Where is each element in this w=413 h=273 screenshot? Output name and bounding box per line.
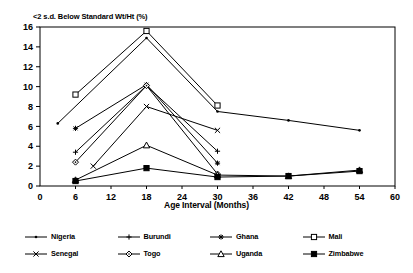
legend-marker xyxy=(126,234,131,239)
data-point xyxy=(287,119,290,122)
data-point xyxy=(56,122,59,125)
legend-marker xyxy=(311,251,316,256)
series-line xyxy=(93,107,217,167)
data-point xyxy=(143,142,149,148)
legend-item-nigeria[interactable]: Nigeria xyxy=(24,232,117,242)
data-point xyxy=(146,85,148,87)
series-mali xyxy=(73,28,220,108)
legend-label: Mali xyxy=(329,233,343,240)
triangle-open-marker-icon xyxy=(209,249,233,259)
y-tick-label: 8 xyxy=(28,102,33,112)
data-point xyxy=(144,104,149,109)
data-point xyxy=(144,28,149,33)
series-nigeria xyxy=(56,37,360,132)
legend-label: Nigeria xyxy=(51,233,75,240)
legend-item-ghana[interactable]: Ghana xyxy=(209,232,302,242)
series-line xyxy=(76,86,218,174)
data-point xyxy=(73,178,78,183)
y-tick-label: 2 xyxy=(28,161,33,171)
data-point xyxy=(215,128,220,133)
y-tick-label: 6 xyxy=(28,122,33,132)
data-point xyxy=(75,161,77,163)
series-togo xyxy=(73,83,221,177)
legend-item-uganda[interactable]: Uganda xyxy=(209,249,302,259)
data-point xyxy=(216,162,218,164)
plus-marker-icon xyxy=(117,232,141,242)
dot-marker-icon xyxy=(24,232,48,242)
legend-label: Zimbabwe xyxy=(329,250,364,257)
data-point xyxy=(286,173,291,178)
legend-marker xyxy=(311,234,316,239)
data-point xyxy=(215,174,220,179)
legend-item-zimbabwe[interactable]: Zimbabwe xyxy=(302,249,395,259)
legend-label: Senegal xyxy=(51,250,78,257)
data-point xyxy=(215,103,220,108)
legend-label: Burundi xyxy=(144,233,171,240)
series-line xyxy=(76,85,218,164)
data-point xyxy=(91,164,96,169)
x-axis-label: Age Interval (Months) xyxy=(0,200,413,210)
data-point xyxy=(358,129,361,132)
legend-item-burundi[interactable]: Burundi xyxy=(117,232,210,242)
y-tick-label: 16 xyxy=(23,22,33,32)
y-tick-label: 4 xyxy=(28,141,33,151)
legend-marker xyxy=(220,235,222,237)
legend-label: Ghana xyxy=(236,233,258,240)
legend-label: Togo xyxy=(144,250,161,257)
square-open-marker-icon xyxy=(302,232,326,242)
cross-marker-icon xyxy=(24,249,48,259)
data-point xyxy=(216,110,219,113)
series-zimbabwe xyxy=(73,166,362,184)
y-tick-label: 10 xyxy=(23,82,33,92)
data-point xyxy=(74,127,76,129)
legend-item-togo[interactable]: Togo xyxy=(117,249,210,259)
legend-item-senegal[interactable]: Senegal xyxy=(24,249,117,259)
star-marker-icon xyxy=(209,232,233,242)
legend-marker xyxy=(128,253,130,255)
y-tick-label: 12 xyxy=(23,62,33,72)
series-line xyxy=(76,31,218,106)
data-point xyxy=(357,168,362,173)
y-tick-label: 14 xyxy=(23,42,33,52)
legend-label: Uganda xyxy=(236,250,262,257)
data-point xyxy=(73,92,78,97)
data-point xyxy=(144,166,149,171)
chart-legend: NigeriaBurundiGhanaMaliSenegalTogoUganda… xyxy=(24,228,394,262)
data-point xyxy=(145,37,148,40)
legend-item-mali[interactable]: Mali xyxy=(302,232,395,242)
diamond-open-marker-icon xyxy=(117,249,141,259)
square-filled-marker-icon xyxy=(302,249,326,259)
series-line xyxy=(58,38,360,130)
y-tick-label: 0 xyxy=(28,181,33,191)
chart-figure: <2 s.d. Below Standard Wt/Ht (%) 0246810… xyxy=(0,0,413,273)
legend-marker xyxy=(35,235,38,238)
